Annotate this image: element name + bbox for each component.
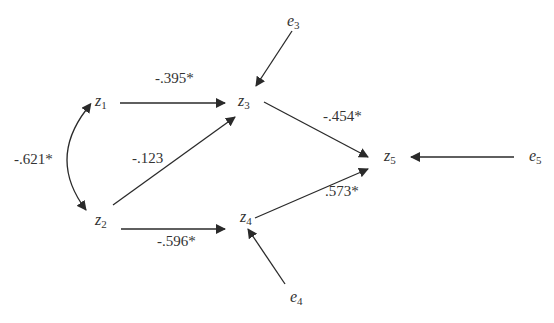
path-diagram-canvas [0,0,554,323]
node-subscript: 1 [101,99,107,111]
node-z2: z2 [95,211,107,230]
coef-z1-z3: -.395* [155,70,194,87]
coef-z2-z4: -.596* [157,233,196,250]
node-subscript: 5 [536,154,542,166]
node-e3: e3 [287,12,300,31]
node-subscript: 3 [294,19,300,31]
edge-e3-z3 [256,31,292,86]
coef-z1-z2: -.621* [14,151,53,168]
node-subscript: 4 [297,295,303,307]
node-e5: e5 [529,147,542,166]
node-subscript: 4 [246,215,252,227]
coef-z2-z3: -.123 [132,150,163,167]
node-z4: z4 [240,208,252,227]
node-z1: z1 [95,92,107,111]
node-z3: z3 [238,92,250,111]
node-z5: z5 [384,147,396,166]
node-e4: e4 [290,288,303,307]
edge-e4-z4 [248,229,285,284]
edge-z1-z2-correlation [67,110,86,210]
node-subscript: 2 [101,218,107,230]
coef-z4-z5: .573* [325,183,359,200]
node-subscript: 5 [390,154,396,166]
node-subscript: 3 [244,99,250,111]
coef-z3-z5: -.454* [323,108,362,125]
